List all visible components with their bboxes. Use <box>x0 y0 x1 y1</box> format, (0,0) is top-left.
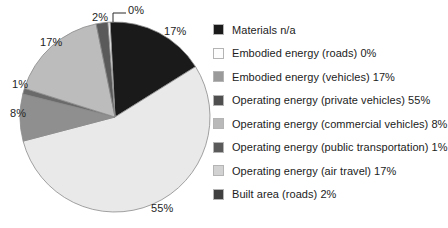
legend-item-label: Materials n/a <box>232 24 296 36</box>
slice-label-materials: 17% <box>164 26 186 37</box>
slice-label-embodied-roads: 0% <box>128 5 144 16</box>
legend-item: Operating energy (commercial vehicles) 8… <box>213 112 445 136</box>
legend-swatch-icon <box>213 48 224 59</box>
legend-item: Operating energy (private vehicles) 55% <box>213 89 445 113</box>
legend-item-label: Embodied energy (roads) 0% <box>232 47 376 59</box>
leader-line-embodied-roads <box>113 13 126 22</box>
pie-slice-group <box>20 22 210 212</box>
legend-swatch-icon <box>213 24 224 35</box>
legend-item-label: Built area (roads) 2% <box>232 188 336 200</box>
slice-label-air-travel: 17% <box>40 37 62 48</box>
legend: Materials n/aEmbodied energy (roads) 0%E… <box>213 18 445 206</box>
slice-label-private-vehicles: 55% <box>151 203 173 214</box>
legend-item: Embodied energy (vehicles) 17% <box>213 65 445 89</box>
legend-item-label: Operating energy (public transportation)… <box>232 141 448 153</box>
legend-item: Built area (roads) 2% <box>213 183 445 207</box>
legend-swatch-icon <box>213 142 224 153</box>
legend-item: Materials n/a <box>213 18 445 42</box>
slice-label-built-area: 2% <box>92 12 108 23</box>
legend-item-label: Operating energy (commercial vehicles) 8… <box>232 118 447 130</box>
legend-swatch-icon <box>213 189 224 200</box>
legend-swatch-icon <box>213 95 224 106</box>
legend-swatch-icon <box>213 118 224 129</box>
legend-swatch-icon <box>213 165 224 176</box>
legend-item-label: Operating energy (private vehicles) 55% <box>232 94 430 106</box>
legend-item: Embodied energy (roads) 0% <box>213 42 445 66</box>
slice-label-commercial-vehicles: 8% <box>10 108 26 119</box>
slice-label-public-transportation: 1% <box>12 79 28 90</box>
legend-item: Operating energy (public transportation)… <box>213 136 445 160</box>
legend-item: Operating energy (air travel) 17% <box>213 159 445 183</box>
legend-item-label: Embodied energy (vehicles) 17% <box>232 71 395 83</box>
pie-plot-area: 17% 55% 8% 1% 17% 2% 0% <box>0 0 215 228</box>
legend-item-label: Operating energy (air travel) 17% <box>232 165 396 177</box>
legend-swatch-icon <box>213 71 224 82</box>
